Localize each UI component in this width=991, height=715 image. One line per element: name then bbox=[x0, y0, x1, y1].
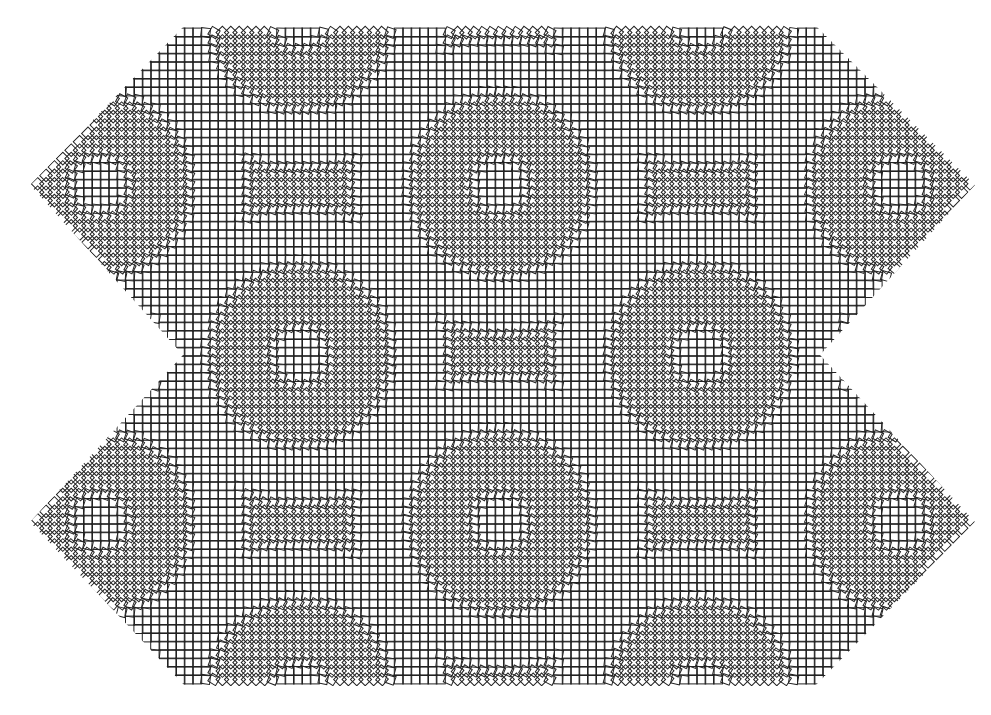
squares-group bbox=[31, 26, 976, 686]
square-pattern-artwork bbox=[0, 0, 991, 715]
